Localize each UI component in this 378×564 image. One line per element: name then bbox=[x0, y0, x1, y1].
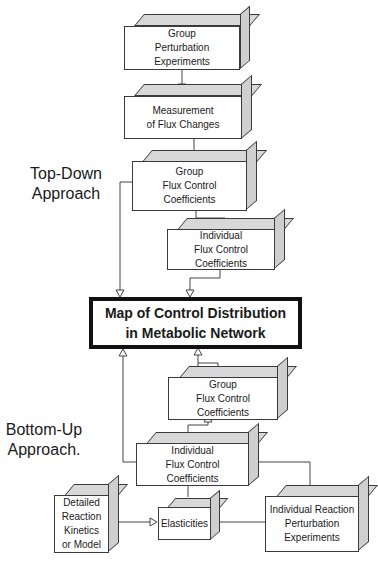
box-text: Elasticities bbox=[161, 517, 208, 531]
box-text: Experiments bbox=[154, 55, 210, 69]
map-title-line: Map of Control Distribution bbox=[105, 303, 286, 323]
box-text: Group bbox=[176, 165, 204, 179]
box-text: Group bbox=[209, 378, 237, 392]
bottom-up-label: Bottom-Up Approach. bbox=[2, 420, 86, 460]
box-text: Flux Control bbox=[194, 243, 248, 257]
box-text: Individual bbox=[171, 444, 213, 458]
box-text: Coefficients bbox=[195, 257, 247, 271]
box-text: Coefficients bbox=[163, 193, 215, 207]
box-text: Flux Control bbox=[166, 458, 220, 472]
map-title-line: in Metabolic Network bbox=[125, 323, 265, 343]
box-side-face bbox=[246, 141, 257, 210]
box-side-face bbox=[241, 75, 252, 139]
box-side-face bbox=[248, 423, 259, 486]
map-control-distribution-box: Map of Control Distribution in Metabolic… bbox=[89, 297, 302, 349]
box-text: or Model bbox=[62, 538, 101, 552]
box-text: Measurement bbox=[152, 104, 213, 118]
box-text: Reaction bbox=[62, 510, 101, 524]
box-side-face bbox=[277, 357, 288, 419]
box-front: Individual Reaction Perturbation Experim… bbox=[265, 496, 359, 552]
box-text: Flux Control bbox=[196, 392, 250, 406]
label-line: Top-Down bbox=[16, 164, 116, 184]
box-text: Coefficients bbox=[197, 406, 249, 420]
box-side-face bbox=[240, 6, 250, 69]
box-front: Measurement of Flux Changes bbox=[124, 96, 242, 139]
box-text: Coefficients bbox=[166, 472, 218, 486]
label-line: Approach bbox=[16, 184, 116, 204]
box-text: Perturbation bbox=[285, 517, 339, 531]
box-front: Elasticities bbox=[158, 507, 211, 540]
box-side-face bbox=[210, 490, 220, 540]
box-front: Group Perturbation Experiments bbox=[124, 26, 240, 70]
box-text: Perturbation bbox=[155, 41, 209, 55]
label-line: Bottom-Up bbox=[2, 420, 86, 440]
label-line: Approach. bbox=[2, 440, 86, 460]
box-text: Flux Control bbox=[163, 179, 217, 193]
box-text: Group bbox=[168, 27, 196, 41]
box-front: Individual Flux Control Coefficients bbox=[136, 443, 249, 486]
box-side-face bbox=[358, 476, 369, 551]
box-front: Individual Flux Control Coefficients bbox=[167, 229, 275, 270]
box-text: Kinetics bbox=[64, 524, 99, 538]
box-side-face bbox=[108, 475, 119, 552]
top-down-label: Top-Down Approach bbox=[16, 164, 116, 204]
box-text: of Flux Changes bbox=[147, 118, 220, 132]
box-text: Experiments bbox=[284, 531, 340, 545]
box-front: Detailed Reaction Kinetics or Model bbox=[54, 495, 109, 553]
box-text: Individual Reaction bbox=[270, 503, 355, 517]
box-text: Detailed bbox=[63, 496, 100, 510]
box-text: Individual bbox=[200, 229, 242, 243]
box-front: Group Flux Control Coefficients bbox=[168, 377, 278, 420]
box-front: Group Flux Control Coefficients bbox=[132, 161, 247, 211]
box-side-face bbox=[274, 209, 285, 269]
